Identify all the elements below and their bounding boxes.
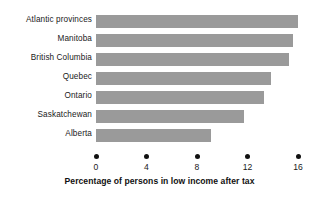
tick-dot-icon [245,154,250,159]
x-axis-title: Percentage of persons in low income afte… [0,176,319,186]
table-row: Ontario [0,88,319,107]
tick-dot-icon [195,154,200,159]
bar-category-label: Quebec [63,72,92,82]
x-axis-tick-label: 12 [233,162,263,172]
bar-category-label: Saskatchewan [38,110,92,120]
table-row: Quebec [0,69,319,88]
bar-chart: Atlantic provinces Manitoba British Colu… [0,0,319,197]
bar-value [96,72,271,85]
bar-value [96,110,244,123]
bar-category-label: Ontario [64,91,92,101]
x-axis-tick-label: 8 [182,162,212,172]
tick-dot-icon [94,154,99,159]
bar-category-label: Alberta [65,129,92,139]
x-axis-tick-label: 16 [283,162,313,172]
table-row: Atlantic provinces [0,12,319,31]
table-row: British Columbia [0,50,319,69]
bar-value [96,91,264,104]
tick-dot-icon [296,154,301,159]
x-axis: 0 4 8 12 16 [0,150,319,175]
table-row: Alberta [0,126,319,145]
bar-value [96,53,289,66]
bar-category-label: British Columbia [31,53,92,63]
bar-value [96,129,211,142]
x-axis-tick-label: 4 [132,162,162,172]
x-axis-tick-label: 0 [81,162,111,172]
tick-dot-icon [144,154,149,159]
bar-category-label: Atlantic provinces [26,15,92,25]
bar-category-label: Manitoba [58,34,92,44]
table-row: Saskatchewan [0,107,319,126]
bar-value [96,15,298,28]
bar-value [96,34,293,47]
table-row: Manitoba [0,31,319,50]
